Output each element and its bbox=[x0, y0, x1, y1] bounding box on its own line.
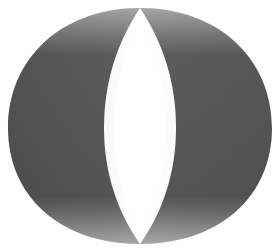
ring-graphic bbox=[0, 0, 280, 251]
ring-image bbox=[0, 0, 280, 251]
